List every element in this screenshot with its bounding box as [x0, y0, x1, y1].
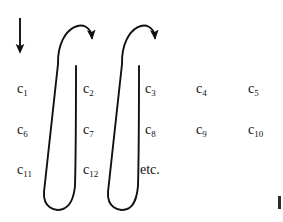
cell-subscript: 8	[151, 129, 156, 139]
cell-subscript: 4	[202, 88, 207, 98]
etc-label: etc.	[140, 163, 160, 177]
cell-label-c7: c7	[83, 123, 94, 137]
snake-path-overlay	[0, 0, 283, 222]
cell-label-c2: c2	[83, 82, 94, 96]
cell-subscript: 11	[23, 169, 32, 179]
cell-subscript: 6	[23, 129, 28, 139]
cell-label-c1: c1	[17, 82, 28, 96]
cell-subscript: 2	[89, 88, 94, 98]
cell-subscript: 3	[151, 88, 156, 98]
snake-hook-2-icon	[108, 64, 139, 210]
cell-label-c10: c10	[248, 123, 263, 137]
cell-subscript: 7	[89, 129, 94, 139]
cell-subscript: 9	[202, 129, 207, 139]
cell-subscript: 10	[254, 129, 263, 139]
cell-label-c5: c5	[248, 82, 259, 96]
cell-subscript: 12	[89, 169, 98, 179]
snake-hook-1-icon	[44, 64, 76, 210]
cell-label-c9: c9	[196, 123, 207, 137]
cell-label-c8: c8	[145, 123, 156, 137]
arch-arrow-1-icon	[58, 26, 92, 64]
cell-label-c11: c11	[17, 163, 32, 177]
cell-label-c12: c12	[83, 163, 98, 177]
cell-label-c3: c3	[145, 82, 156, 96]
cell-subscript: 5	[254, 88, 259, 98]
arch-arrow-2-icon	[122, 26, 155, 64]
cell-subscript: 1	[23, 88, 28, 98]
edge-artifact-mark	[278, 196, 281, 209]
figure-canvas: c1c2c3c4c5c6c7c8c9c10c11c12 etc.	[0, 0, 283, 222]
cell-label-c4: c4	[196, 82, 207, 96]
cell-label-c6: c6	[17, 123, 28, 137]
